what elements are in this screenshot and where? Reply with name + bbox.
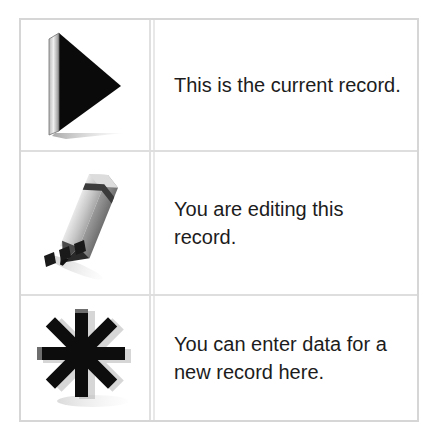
- record-status-legend-table: This is the current record.: [19, 18, 419, 422]
- text-cell-editing-record: You are editing this record.: [151, 152, 417, 294]
- table-row: You can enter data for a new record here…: [21, 296, 417, 420]
- icon-cell-editing-record: [21, 152, 151, 294]
- asterisk-icon: [31, 305, 139, 411]
- text-cell-current-record: This is the current record.: [151, 20, 417, 150]
- icon-cell-current-record: [21, 20, 151, 150]
- table-row: This is the current record.: [21, 20, 417, 152]
- icon-cell-new-record: [21, 296, 151, 420]
- pencil-icon: [30, 164, 140, 282]
- legend-label: You are editing this record.: [174, 195, 406, 251]
- table-row: You are editing this record.: [21, 152, 417, 296]
- legend-label: This is the current record.: [174, 71, 401, 99]
- legend-label: You can enter data for a new record here…: [174, 330, 406, 386]
- text-cell-new-record: You can enter data for a new record here…: [151, 296, 417, 420]
- play-triangle-icon: [42, 29, 128, 141]
